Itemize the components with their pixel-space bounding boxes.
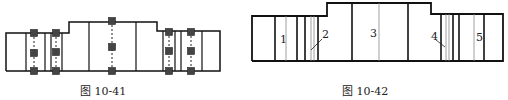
segment-label-3: 3: [370, 27, 377, 40]
leader-line: [311, 39, 322, 50]
node-square-icon: [188, 68, 195, 75]
segment-label-1: 1: [280, 33, 287, 46]
shaft-outline: [252, 3, 503, 61]
node-square-icon: [188, 29, 195, 36]
node-square-icon: [53, 30, 60, 37]
figure-10-41-caption: 图 10-41: [80, 82, 126, 98]
node-square-icon: [31, 30, 38, 37]
segment-label-4: 4: [431, 30, 438, 43]
figure-10-42-caption: 图 10-42: [342, 82, 388, 98]
node-square-icon: [166, 29, 173, 36]
node-square-icon: [109, 18, 116, 25]
node-square-icon: [31, 50, 38, 57]
segment-label-5: 5: [476, 31, 483, 44]
node-square-icon: [109, 44, 116, 51]
node-square-icon: [166, 48, 173, 55]
node-square-icon: [109, 68, 116, 75]
segment-label-2: 2: [322, 28, 329, 41]
node-square-icon: [31, 68, 38, 75]
node-square-icon: [53, 49, 60, 56]
node-square-icon: [166, 68, 173, 75]
node-square-icon: [188, 48, 195, 55]
node-square-icon: [53, 68, 60, 75]
figure-10-41-diagram: 12345: [0, 0, 508, 100]
